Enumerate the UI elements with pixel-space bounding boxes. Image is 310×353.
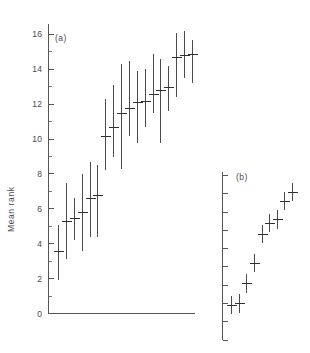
panel-a-errorbar-point (156, 59, 166, 143)
panel-b-tick-group (223, 176, 228, 340)
panel-a-tick-label-group: 0246810121416 (32, 29, 42, 318)
panel-a-errorbar-point (117, 64, 127, 169)
panel-a-errorbar-point (149, 54, 159, 113)
panel-a-tick-label: 4 (37, 239, 42, 249)
figure-root: 0246810121416 (a) (b) Mean rank (0, 0, 310, 353)
panel-a-errorbar-point (101, 99, 111, 171)
panel-a-data-group (54, 31, 198, 280)
panel-b-errorbar-point (280, 192, 290, 210)
panel-b-errorbar-point (258, 225, 268, 243)
chart-canvas: 0246810121416 (a) (b) Mean rank (0, 0, 310, 353)
panel-b-errorbar-point (288, 183, 298, 201)
panel-b-label: (b) (236, 172, 248, 182)
panel-a-errorbar-point (93, 165, 103, 237)
panel-a-tick-label: 0 (37, 309, 42, 319)
panel-a: 0246810121416 (a) (32, 24, 197, 319)
panel-a-errorbar-point (164, 66, 174, 111)
panel-a-errorbar-point (70, 198, 80, 240)
panel-b-errorbar-point (250, 254, 260, 272)
panel-a-tick-group (49, 34, 54, 313)
panel-a-tick-label: 10 (32, 134, 42, 144)
panel-b: (b) (223, 172, 298, 340)
panel-a-tick-label: 2 (37, 274, 42, 284)
y-axis-title: Mean rank (6, 186, 16, 232)
panel-a-errorbar-point (86, 162, 96, 237)
panel-a-tick-label: 16 (32, 29, 42, 39)
panel-a-errorbar-point (62, 183, 72, 260)
panel-a-errorbar-point (188, 40, 198, 84)
panel-a-label: (a) (55, 33, 67, 43)
panel-a-errorbar-point (141, 69, 151, 127)
panel-b-errorbar-point (273, 210, 283, 228)
panel-a-errorbar-point (54, 225, 64, 281)
panel-b-errorbar-point (235, 294, 245, 312)
panel-b-errorbar-point (227, 296, 237, 314)
panel-b-data-group (227, 183, 298, 314)
panel-b-errorbar-point (242, 274, 252, 292)
panel-a-tick-label: 12 (32, 99, 42, 109)
panel-a-errorbar-point (109, 85, 119, 157)
panel-b-errorbar-point (265, 214, 275, 232)
panel-a-tick-label: 8 (37, 169, 42, 179)
panel-a-errorbar-point (133, 71, 143, 143)
panel-a-errorbar-point (125, 61, 135, 136)
panel-a-tick-label: 14 (32, 64, 42, 74)
panel-a-tick-label: 6 (37, 204, 42, 214)
panel-a-errorbar-point (78, 174, 88, 251)
